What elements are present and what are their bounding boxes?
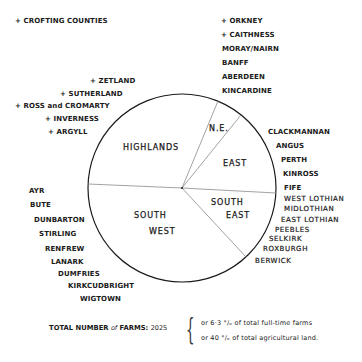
note-agricultural-land: or 40 °/ₒ of total agricultural land. (201, 334, 318, 342)
county-berwick: BERWICK (255, 257, 291, 266)
county-dumfries: DUMFRIES (58, 270, 100, 279)
region-label-south-east-1: SOUTH (211, 198, 244, 207)
region-label-ne: N.E. (209, 124, 229, 133)
county-kincardine: KINCARDINE (222, 87, 272, 96)
pie-center (181, 187, 183, 189)
county-bute: BUTE (30, 201, 51, 210)
total-farms-value: 2025 (151, 324, 168, 332)
region-label-south-east-2: EAST (226, 211, 250, 220)
county-perth: PERTH (281, 156, 307, 165)
crofting-counties-legend: + CROFTING COUNTIES (15, 17, 108, 26)
total-farms-line: TOTAL NUMBER of FARMS: 2025 (49, 324, 167, 332)
total-label: TOTAL NUMBER (49, 324, 109, 332)
county-east-lothian: EAST LOTHIAN (281, 216, 339, 225)
region-label-east: EAST (223, 159, 247, 168)
county-peebles: PEEBLES (275, 226, 310, 235)
county-kinross: KINROSS (283, 170, 319, 179)
county-angus: ANGUS (276, 142, 304, 151)
county-orkney: + ORKNEY (221, 17, 263, 26)
county-clackmannan: CLACKMANNAN (268, 128, 330, 137)
county-fife: FIFE (284, 184, 301, 193)
region-label-highlands: HIGHLANDS (123, 143, 179, 152)
county-wigtown: WIGTOWN (80, 295, 121, 304)
county-dunbarton: DUNBARTON (34, 216, 85, 225)
total-of: of (111, 324, 117, 332)
county-argyll: + ARGYLL (48, 128, 88, 137)
regions-pie-chart (0, 0, 362, 362)
county-stirling: STIRLING (39, 230, 76, 239)
county-moray-nairn: MORAY/NAIRN (222, 45, 279, 54)
farms-label: FARMS: (120, 324, 149, 332)
county-inverness: + INVERNESS (45, 115, 99, 124)
county-banff: BANFF (222, 59, 249, 68)
county-roxburgh: ROXBURGH (263, 245, 308, 254)
county-renfrew: RENFREW (45, 245, 84, 254)
brace-symbol: { (186, 314, 195, 344)
county-west-lothian: WEST LOTHIAN (284, 195, 344, 204)
county-zetland: + ZETLAND (90, 77, 135, 86)
county-sutherland: + SUTHERLAND (60, 90, 123, 99)
county-ross-and-cromarty: + ROSS and CROMARTY (15, 102, 110, 111)
divider-highlands-ne (182, 101, 218, 188)
county-ayr: AYR (29, 187, 45, 196)
county-caithness: + CAITHNESS (221, 31, 275, 40)
divider-east-southeast (182, 188, 276, 193)
county-aberdeen: ABERDEEN (222, 73, 265, 82)
region-label-south-west-1: SOUTH (134, 211, 167, 220)
region-label-south-west-2: WEST (149, 227, 176, 236)
divider-southwest-highlands (88, 184, 182, 188)
county-selkirk: SELKIRK (269, 235, 302, 244)
county-midlothian: MIDLOTHIAN (284, 205, 334, 214)
county-lanark: LANARK (51, 258, 84, 267)
county-kirkcudbright: KIRKCUDBRIGHT (68, 282, 134, 291)
note-full-time-farms: or 6·3 °/ₒ of total full-time farms (201, 319, 312, 327)
